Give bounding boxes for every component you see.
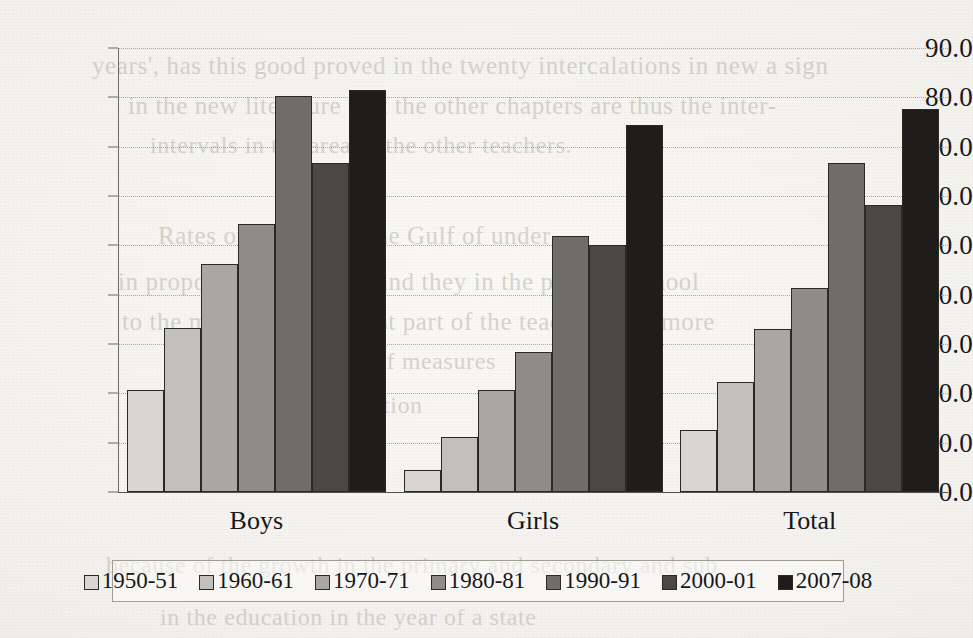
legend-swatch-icon — [431, 575, 446, 590]
legend-item[interactable]: 2000-01 — [662, 568, 757, 594]
bar-group — [404, 48, 663, 492]
x-axis-category-label: Girls — [404, 506, 663, 536]
bar[interactable] — [275, 96, 312, 492]
legend-swatch-icon — [199, 575, 214, 590]
legend-item[interactable]: 1960-61 — [199, 568, 294, 594]
bar[interactable] — [626, 125, 663, 492]
bar[interactable] — [717, 382, 754, 492]
bar[interactable] — [791, 288, 828, 492]
bar-group — [680, 48, 939, 492]
legend-swatch-icon — [315, 575, 330, 590]
legend-item[interactable]: 2007-08 — [778, 568, 873, 594]
legend-swatch-icon — [84, 575, 99, 590]
y-axis-tick-mark — [108, 245, 118, 246]
legend-label: 1990-91 — [564, 568, 641, 594]
legend-label: 1980-81 — [449, 568, 526, 594]
legend-label: 1960-61 — [217, 568, 294, 594]
bar[interactable] — [680, 430, 717, 492]
legend-label: 1950-51 — [102, 568, 179, 594]
y-axis-tick-mark — [108, 146, 118, 147]
legend-label: 2007-08 — [796, 568, 873, 594]
y-axis-tick-mark — [108, 97, 118, 98]
bar[interactable] — [902, 109, 939, 492]
y-axis-tick-mark — [108, 393, 118, 394]
bar[interactable] — [865, 205, 902, 492]
grouped-bar-chart: 90.080.070.060.050.040.030.020.010.00.0 … — [0, 0, 973, 638]
legend-swatch-icon — [662, 575, 677, 590]
bar[interactable] — [515, 352, 552, 492]
bar[interactable] — [552, 236, 589, 492]
chart-legend: 1950-511960-611970-711980-811990-912000-… — [112, 560, 844, 602]
legend-label: 1970-71 — [333, 568, 410, 594]
bar[interactable] — [754, 329, 791, 492]
x-axis-category-label: Total — [680, 506, 939, 536]
bar[interactable] — [238, 224, 275, 492]
bar[interactable] — [127, 390, 164, 492]
legend-item[interactable]: 1980-81 — [431, 568, 526, 594]
bar[interactable] — [312, 163, 349, 492]
axis-baseline — [118, 492, 948, 493]
bar[interactable] — [404, 470, 441, 492]
y-axis-tick-mark — [108, 344, 118, 345]
bar[interactable] — [589, 245, 626, 492]
y-axis-tick-mark — [108, 492, 118, 493]
bar[interactable] — [164, 328, 201, 492]
plot-area — [118, 48, 948, 492]
bar[interactable] — [201, 264, 238, 492]
y-axis-tick-mark — [108, 442, 118, 443]
y-axis-tick-mark — [108, 196, 118, 197]
y-axis-tick-mark — [108, 294, 118, 295]
bar[interactable] — [478, 390, 515, 492]
x-axis-category-label: Boys — [127, 506, 386, 536]
legend-item[interactable]: 1990-91 — [546, 568, 641, 594]
bar[interactable] — [828, 163, 865, 492]
bar[interactable] — [441, 437, 478, 492]
y-axis-tick-mark — [108, 48, 118, 49]
legend-swatch-icon — [778, 575, 793, 590]
legend-swatch-icon — [546, 575, 561, 590]
bar-group — [127, 48, 386, 492]
bar[interactable] — [349, 90, 386, 492]
legend-label: 2000-01 — [680, 568, 757, 594]
scanned-chart-page: years', has this good proved in the twen… — [0, 0, 973, 638]
legend-item[interactable]: 1970-71 — [315, 568, 410, 594]
legend-item[interactable]: 1950-51 — [84, 568, 179, 594]
